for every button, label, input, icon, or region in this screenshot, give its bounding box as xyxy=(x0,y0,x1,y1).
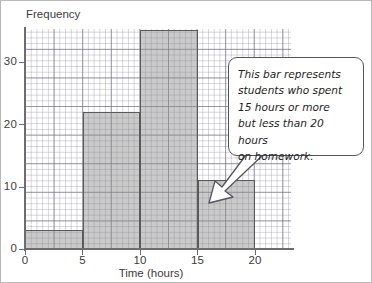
bar-bin-10-15 xyxy=(140,30,198,249)
y-tick-30 xyxy=(19,62,25,63)
x-tick-label-10: 10 xyxy=(130,254,150,266)
bar-bin-15-20 xyxy=(198,180,256,249)
x-tick-label-0: 0 xyxy=(15,254,35,266)
bar-bin-0-5 xyxy=(25,230,83,249)
x-tick-label-15: 15 xyxy=(188,254,208,266)
callout-box: This bar represents students who spent 1… xyxy=(228,57,364,156)
y-tick-10 xyxy=(19,187,25,188)
x-axis-title: Time (hours) xyxy=(1,267,301,279)
x-axis-line xyxy=(24,248,294,250)
y-tick-label-0: 0 xyxy=(1,242,17,254)
y-tick-label-10: 10 xyxy=(1,180,17,192)
y-tick-label-30: 30 xyxy=(1,55,17,67)
y-axis-title: Frequency xyxy=(26,8,80,20)
x-tick-label-20: 20 xyxy=(245,254,265,266)
bar-bin-5-10 xyxy=(83,112,141,250)
y-tick-label-20: 20 xyxy=(1,118,17,130)
histogram-figure: Frequency 30 20 10 0 0 5 10 15 20 Time (… xyxy=(0,0,372,283)
callout-text: This bar represents students who spent 1… xyxy=(238,66,354,164)
y-tick-20 xyxy=(19,124,25,125)
x-tick-label-5: 5 xyxy=(73,254,93,266)
